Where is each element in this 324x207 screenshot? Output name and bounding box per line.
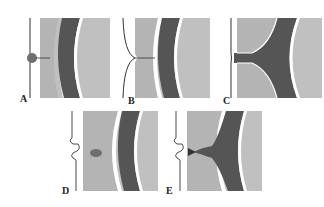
panel-label-c: C bbox=[223, 95, 230, 106]
panel-a: A bbox=[20, 15, 110, 105]
panel-b: B bbox=[120, 15, 210, 105]
panel-e: E bbox=[172, 108, 262, 198]
panel-c-illustration bbox=[222, 15, 322, 105]
panel-b-illustration bbox=[120, 15, 210, 105]
panel-a-illustration bbox=[20, 15, 110, 105]
panel-label-e: E bbox=[166, 185, 173, 196]
panel-label-a: A bbox=[20, 93, 27, 104]
panel-label-b: B bbox=[128, 95, 135, 106]
panel-label-d: D bbox=[62, 185, 69, 196]
panel-d: D bbox=[68, 108, 158, 198]
panel-d-illustration bbox=[68, 108, 158, 198]
panel-e-illustration bbox=[172, 108, 262, 198]
panel-c: C bbox=[222, 15, 322, 105]
